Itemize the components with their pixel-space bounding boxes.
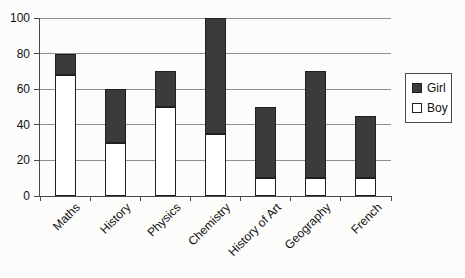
bar-segment-boy-physics: [155, 107, 176, 196]
bar-segment-girl-history-of-art: [255, 107, 276, 178]
x-axis-tick: [90, 196, 91, 201]
x-axis-tick: [40, 196, 41, 201]
bar-segment-boy-chemistry: [205, 134, 226, 196]
legend-label-boy: Boy: [427, 102, 448, 114]
y-axis-tick: [34, 53, 40, 54]
x-axis-tick: [391, 196, 392, 201]
legend-item-boy: Boy: [412, 102, 451, 114]
bar-segment-boy-history-of-art: [255, 178, 276, 196]
y-tick-label: 20: [0, 153, 30, 167]
x-label-maths: Maths: [51, 201, 83, 233]
bar-segment-girl-french: [355, 116, 376, 178]
x-label-chemistry: Chemistry: [186, 201, 233, 248]
y-tick-label: 0: [0, 189, 30, 203]
x-label-physics: Physics: [145, 201, 183, 239]
bar-segment-boy-french: [355, 178, 376, 196]
x-axis-tick: [190, 196, 191, 201]
x-label-french: French: [349, 201, 385, 237]
bar-segment-boy-history: [105, 143, 126, 196]
bar-segment-girl-maths: [55, 54, 76, 75]
chart-legend: Girl Boy: [405, 73, 452, 123]
y-tick-label: 100: [0, 11, 30, 25]
bar-segment-girl-history: [105, 89, 126, 142]
x-axis-tick: [340, 196, 341, 201]
legend-item-girl: Girl: [412, 82, 451, 94]
x-axis-tick: [240, 196, 241, 201]
x-label-geography: Geography: [283, 201, 334, 252]
y-axis-tick: [34, 89, 40, 90]
y-tick-label: 60: [0, 82, 30, 96]
stacked-bar-chart-figure: 020406080100MathsHistoryPhysicsChemistry…: [0, 0, 465, 278]
boy-series-swatch-icon: [412, 103, 422, 113]
x-label-history: History: [98, 201, 134, 237]
y-axis-tick: [34, 124, 40, 125]
y-axis-tick: [34, 160, 40, 161]
bar-segment-girl-chemistry: [205, 18, 226, 134]
plot-area: 020406080100MathsHistoryPhysicsChemistry…: [39, 18, 391, 197]
x-axis-tick: [290, 196, 291, 201]
y-tick-label: 40: [0, 118, 30, 132]
bar-segment-boy-maths: [55, 75, 76, 196]
bar-segment-boy-geography: [305, 178, 326, 196]
bar-segment-girl-geography: [305, 71, 326, 178]
bar-segment-girl-physics: [155, 71, 176, 107]
x-label-history-of-art: History of Art: [226, 201, 284, 259]
x-axis-tick: [140, 196, 141, 201]
girl-series-swatch-icon: [412, 83, 422, 93]
y-tick-label: 80: [0, 47, 30, 61]
legend-label-girl: Girl: [427, 82, 446, 94]
y-axis-tick: [34, 18, 40, 19]
